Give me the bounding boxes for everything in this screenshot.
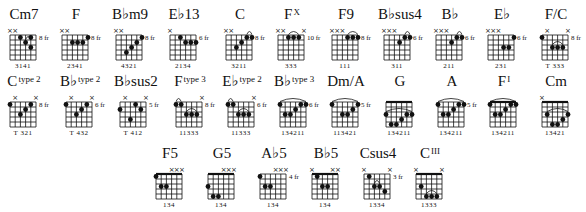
muted-string-icon: × bbox=[12, 27, 18, 35]
finger-dot bbox=[8, 102, 13, 107]
fretboard-grid: ×8 fr11333 bbox=[170, 90, 222, 140]
fret-position-label: 3 fr bbox=[393, 173, 404, 181]
finger-dot bbox=[70, 40, 75, 45]
chord-diagram: B♭5×××134 bbox=[306, 144, 358, 212]
muted-string-icon: × bbox=[167, 27, 173, 35]
finger-dot bbox=[397, 40, 402, 45]
chord-name-text: Dm/A bbox=[327, 73, 365, 89]
finger-dot bbox=[560, 45, 565, 50]
fretboard-grid: ×××6 fr211 bbox=[430, 23, 482, 73]
finger-dot bbox=[540, 35, 545, 40]
fretboard-grid: ×××134 bbox=[150, 162, 202, 212]
chord-name: F/C bbox=[536, 5, 576, 23]
chord-diagram: FI134211 bbox=[484, 72, 536, 140]
chord-name-text: E♭ bbox=[494, 6, 510, 22]
fingering-label: 134 bbox=[163, 201, 175, 209]
fret-position-label: 10 fr bbox=[307, 34, 321, 42]
fingering-label: 13421 bbox=[545, 129, 565, 137]
chord-diagram: B♭sus2××5 frT 412 bbox=[114, 72, 166, 140]
muted-string-icon: × bbox=[339, 27, 345, 35]
chord-variant-label: I bbox=[507, 74, 510, 84]
muted-string-icon: × bbox=[122, 94, 128, 102]
finger-dot bbox=[488, 102, 493, 107]
chord-name: F bbox=[56, 5, 96, 23]
finger-dot bbox=[124, 50, 129, 55]
fingering-label: T 412 bbox=[124, 129, 143, 137]
chord-variant-label: type 2 bbox=[78, 74, 100, 84]
chord-name-text: E♭13 bbox=[168, 6, 199, 22]
finger-dot bbox=[28, 102, 33, 107]
finger-dot bbox=[410, 112, 415, 117]
finger-dot bbox=[216, 194, 221, 199]
fingering-label: T 321 bbox=[14, 129, 33, 137]
finger-dot bbox=[404, 112, 409, 117]
finger-dot bbox=[178, 35, 183, 40]
muted-string-icon: × bbox=[539, 94, 545, 102]
finger-dot bbox=[356, 35, 361, 40]
chord-diagram: E♭type 2×6 fr11333 bbox=[222, 72, 274, 140]
finger-dot bbox=[402, 35, 407, 40]
chord-name: Csus4 bbox=[358, 144, 398, 162]
chord-name: E♭type 2 bbox=[222, 72, 262, 90]
chord-name: G bbox=[380, 72, 420, 90]
chord-name: Cm bbox=[536, 72, 576, 90]
chord-variant-label: X bbox=[293, 7, 300, 17]
barre-arc-icon bbox=[405, 32, 410, 35]
muted-string-icon: × bbox=[280, 27, 286, 35]
chord-diagram: B♭type 36 fr134211 bbox=[274, 72, 326, 140]
finger-dot bbox=[498, 112, 503, 117]
finger-dot bbox=[454, 35, 459, 40]
chord-name: B♭ bbox=[430, 5, 470, 23]
finger-dot bbox=[23, 40, 28, 45]
fretboard-grid: 6 fr134211 bbox=[274, 90, 326, 140]
finger-dot bbox=[460, 35, 465, 40]
finger-dot bbox=[367, 174, 372, 179]
fret-position-label: 5 fr bbox=[149, 101, 160, 109]
muted-string-icon: × bbox=[12, 94, 18, 102]
chord-diagram: F/C××8 frT 333 bbox=[536, 5, 586, 73]
finger-dot bbox=[408, 35, 413, 40]
muted-string-icon: × bbox=[179, 166, 185, 174]
fingering-label: 311 bbox=[391, 62, 403, 70]
finger-dot bbox=[372, 184, 377, 189]
chord-name-text: Csus4 bbox=[360, 145, 397, 161]
finger-dot bbox=[18, 35, 23, 40]
muted-string-icon: × bbox=[495, 27, 501, 35]
fret-position-label: 6 fr bbox=[413, 34, 424, 42]
finger-dot bbox=[434, 194, 439, 199]
finger-dot bbox=[545, 112, 550, 117]
fretboard-grid: ××8 fr4321 bbox=[110, 23, 162, 73]
chord-name: Ftype 3 bbox=[170, 72, 210, 90]
barre-arc-icon bbox=[228, 99, 233, 102]
chord-name-text: F bbox=[284, 6, 292, 22]
finger-dot bbox=[174, 102, 179, 107]
finger-dot bbox=[211, 194, 216, 199]
fingering-label: 134 bbox=[267, 201, 279, 209]
chord-name-text: B♭ bbox=[60, 73, 77, 89]
muted-string-icon: × bbox=[118, 27, 124, 35]
chord-name: Ctype 2 bbox=[4, 72, 44, 90]
chord-diagram: CIII××1333 bbox=[410, 144, 462, 212]
fretboard-grid: ××1333 bbox=[410, 162, 462, 212]
finger-dot bbox=[133, 102, 138, 107]
fretboard-grid: 134211 bbox=[380, 90, 432, 140]
chord-name-text: C bbox=[235, 6, 245, 22]
finger-dot bbox=[138, 107, 143, 112]
fingering-label: 11333 bbox=[231, 129, 251, 137]
finger-dot bbox=[493, 112, 498, 117]
finger-dot bbox=[288, 112, 293, 117]
chord-diagram: C××8 fr3211 bbox=[220, 5, 272, 73]
muted-string-icon: × bbox=[439, 166, 445, 174]
chord-diagram: Cm×13421 bbox=[536, 72, 586, 140]
chord-name: FX bbox=[272, 5, 312, 23]
finger-dot bbox=[320, 184, 325, 189]
chord-name: Dm/A bbox=[326, 72, 366, 90]
finger-dot bbox=[424, 194, 429, 199]
chord-variant-label: III bbox=[431, 146, 440, 156]
fret-position-label: 8 fr bbox=[39, 34, 50, 42]
finger-dot bbox=[512, 35, 517, 40]
muted-string-icon: × bbox=[68, 94, 74, 102]
finger-dot bbox=[451, 107, 456, 112]
fret-position-label: 8 fr bbox=[91, 34, 102, 42]
muted-string-icon: × bbox=[361, 166, 367, 174]
